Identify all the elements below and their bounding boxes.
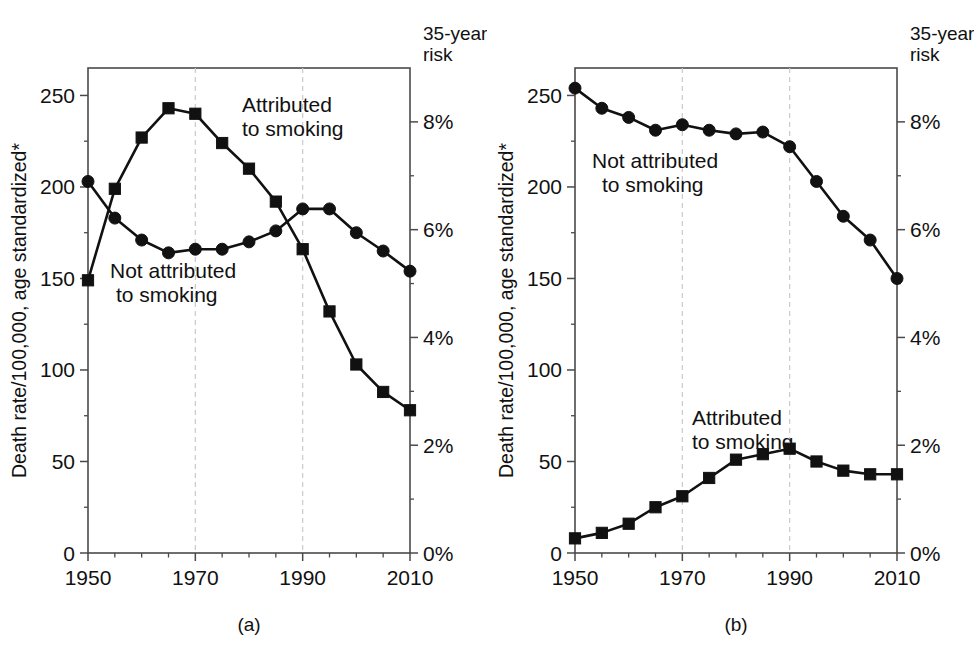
data-point-square xyxy=(136,132,147,143)
y-tick-label-250: 250 xyxy=(527,84,562,107)
series-annotation-not-attributed-line1: Not attributed xyxy=(110,259,236,282)
data-point-square xyxy=(865,469,876,480)
data-point-circle xyxy=(623,111,635,123)
data-point-square xyxy=(569,533,580,544)
data-point-circle xyxy=(324,203,336,215)
right-axis-header-line2: risk xyxy=(910,44,940,65)
x-tick-label-1950: 1950 xyxy=(65,566,112,589)
data-point-square xyxy=(297,244,308,255)
y-axis-title: Death rate/100,000, age standardized* xyxy=(8,143,30,478)
data-point-circle xyxy=(596,102,608,114)
chart-panel-a: 0501001502002500%2%4%6%8%195019701990201… xyxy=(0,0,487,645)
series-annotation-attributed-line1: Attributed xyxy=(242,93,332,116)
data-point-circle xyxy=(569,82,581,94)
x-tick-label-2010: 2010 xyxy=(387,566,434,589)
data-point-square xyxy=(190,108,201,119)
data-point-square xyxy=(596,527,607,538)
series-annotation-not-attributed-line1: Not attributed xyxy=(592,149,718,172)
data-point-circle xyxy=(730,128,742,140)
y2-tick-label-0: 0% xyxy=(423,542,453,565)
data-point-square xyxy=(891,469,902,480)
data-point-circle xyxy=(350,227,362,239)
y-tick-label-200: 200 xyxy=(40,175,75,198)
y2-tick-label-0: 0% xyxy=(910,542,940,565)
chart-svg-b: 0501001502002500%2%4%6%8%195019701990201… xyxy=(487,0,974,645)
y-tick-label-0: 0 xyxy=(63,542,75,565)
data-point-circle xyxy=(163,247,175,259)
series-annotation-attributed-line2: to smoking xyxy=(692,430,794,453)
x-tick-label-1970: 1970 xyxy=(172,566,219,589)
plot-area-a: 0501001502002500%2%4%6%8%195019701990201… xyxy=(8,23,487,635)
data-point-circle xyxy=(82,175,94,187)
data-point-square xyxy=(404,405,415,416)
chart-panel-b: 0501001502002500%2%4%6%8%195019701990201… xyxy=(487,0,974,645)
data-point-circle xyxy=(676,119,688,131)
y-tick-label-200: 200 xyxy=(527,175,562,198)
right-axis-header-line1: 35-year xyxy=(910,23,974,44)
y2-tick-label-8: 8% xyxy=(423,110,453,133)
data-point-circle xyxy=(757,126,769,138)
y-tick-label-150: 150 xyxy=(527,267,562,290)
data-point-circle xyxy=(404,265,416,277)
data-point-square xyxy=(811,456,822,467)
data-point-square xyxy=(838,465,849,476)
data-point-circle xyxy=(650,124,662,136)
data-point-circle xyxy=(784,141,796,153)
x-tick-label-2010: 2010 xyxy=(874,566,921,589)
data-point-square xyxy=(324,306,335,317)
data-point-square xyxy=(704,472,715,483)
y-tick-label-0: 0 xyxy=(550,542,562,565)
y2-tick-label-8: 8% xyxy=(910,110,940,133)
data-point-circle xyxy=(189,243,201,255)
panel-label: (a) xyxy=(237,614,260,635)
series-annotation-not-attributed-line2: to smoking xyxy=(116,283,218,306)
data-point-circle xyxy=(377,245,389,257)
data-point-square xyxy=(730,454,741,465)
data-point-circle xyxy=(864,234,876,246)
data-point-circle xyxy=(891,272,903,284)
x-tick-label-1970: 1970 xyxy=(659,566,706,589)
data-point-circle xyxy=(216,243,228,255)
chart-svg-a: 0501001502002500%2%4%6%8%195019701990201… xyxy=(0,0,487,645)
data-point-square xyxy=(109,183,120,194)
y2-tick-label-6: 6% xyxy=(910,218,940,241)
data-point-square xyxy=(82,275,93,286)
data-point-square xyxy=(163,103,174,114)
x-tick-label-1950: 1950 xyxy=(552,566,599,589)
y2-tick-label-2: 2% xyxy=(423,434,453,457)
plot-area-b: 0501001502002500%2%4%6%8%195019701990201… xyxy=(495,23,974,635)
data-point-square xyxy=(243,163,254,174)
x-tick-label-1990: 1990 xyxy=(766,566,813,589)
data-point-circle xyxy=(109,212,121,224)
data-point-square xyxy=(270,196,281,207)
right-axis-header-line1: 35-year xyxy=(423,23,487,44)
y-tick-label-100: 100 xyxy=(527,358,562,381)
series-annotation-not-attributed-line2: to smoking xyxy=(602,173,704,196)
data-point-square xyxy=(217,137,228,148)
y2-tick-label-6: 6% xyxy=(423,218,453,241)
plot-frame xyxy=(575,68,897,553)
y2-tick-label-4: 4% xyxy=(423,326,453,349)
data-point-square xyxy=(623,518,634,529)
data-point-circle xyxy=(703,124,715,136)
data-point-square xyxy=(378,386,389,397)
series-annotation-attributed-line2: to smoking xyxy=(242,117,344,140)
y-axis-title: Death rate/100,000, age standardized* xyxy=(495,143,517,478)
y-tick-label-100: 100 xyxy=(40,358,75,381)
y2-tick-label-4: 4% xyxy=(910,326,940,349)
series-line-not-attributed xyxy=(88,181,410,271)
x-tick-label-1990: 1990 xyxy=(279,566,326,589)
y-tick-label-150: 150 xyxy=(40,267,75,290)
data-point-circle xyxy=(837,210,849,222)
y-tick-label-50: 50 xyxy=(539,450,562,473)
data-point-square xyxy=(351,359,362,370)
data-point-circle xyxy=(243,236,255,248)
y-tick-label-50: 50 xyxy=(52,450,75,473)
data-point-circle xyxy=(811,175,823,187)
y-tick-label-250: 250 xyxy=(40,84,75,107)
data-point-square xyxy=(650,502,661,513)
figure-root: 0501001502002500%2%4%6%8%195019701990201… xyxy=(0,0,974,645)
data-point-circle xyxy=(136,234,148,246)
panel-label: (b) xyxy=(724,614,747,635)
data-point-circle xyxy=(297,203,309,215)
